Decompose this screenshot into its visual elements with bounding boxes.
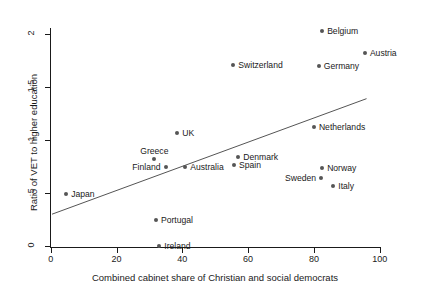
- x-tick-mark: [314, 248, 315, 253]
- x-tick-label: 0: [36, 254, 66, 264]
- data-point-label: Australia: [190, 162, 223, 172]
- data-point-label: Austria: [370, 48, 397, 58]
- data-point-marker[interactable]: [164, 165, 168, 169]
- x-tick-label: 80: [299, 254, 329, 264]
- data-point-label: Greece: [140, 146, 168, 156]
- x-axis-title: Combined cabinet share of Christian and …: [40, 272, 390, 283]
- y-tick-mark: [45, 34, 50, 35]
- data-point-label: Switzerland: [238, 60, 282, 70]
- y-tick-mark: [45, 193, 50, 194]
- data-point-label: Spain: [239, 160, 261, 170]
- x-tick-label: 100: [365, 254, 395, 264]
- data-point-label: Germany: [324, 61, 359, 71]
- data-point-marker[interactable]: [317, 64, 321, 68]
- x-tick-mark: [380, 248, 381, 253]
- data-point-marker[interactable]: [331, 184, 335, 188]
- data-point-label: Netherlands: [319, 122, 365, 132]
- x-tick-mark: [248, 248, 249, 253]
- data-point-label: Finland: [132, 162, 160, 172]
- data-point-label: Portugal: [161, 215, 193, 225]
- y-tick-label: 2: [26, 21, 36, 45]
- data-point-label: Italy: [338, 181, 354, 191]
- x-tick-mark: [51, 248, 52, 253]
- y-axis-title: Ratio of VET to higher education: [28, 48, 39, 238]
- data-point-label: UK: [182, 128, 194, 138]
- x-tick-label: 20: [102, 254, 132, 264]
- data-point-label: Sweden: [285, 173, 316, 183]
- scatter-plot-figure: 0.511.52 020406080100 BelgiumAustriaGerm…: [0, 0, 425, 307]
- x-tick-mark: [117, 248, 118, 253]
- data-point-label: Japan: [71, 189, 94, 199]
- data-point-marker[interactable]: [320, 166, 324, 170]
- data-point-label: Norway: [327, 163, 356, 173]
- data-point-marker[interactable]: [183, 165, 187, 169]
- x-tick-label: 40: [167, 254, 197, 264]
- y-tick-mark: [45, 140, 50, 141]
- data-point-label: Ireland: [164, 241, 190, 251]
- data-point-marker[interactable]: [154, 218, 158, 222]
- data-point-marker[interactable]: [363, 51, 367, 55]
- y-tick-mark: [45, 246, 50, 247]
- data-point-marker[interactable]: [320, 29, 324, 33]
- data-point-label: Belgium: [327, 26, 358, 36]
- y-tick-mark: [45, 87, 50, 88]
- x-tick-label: 60: [233, 254, 263, 264]
